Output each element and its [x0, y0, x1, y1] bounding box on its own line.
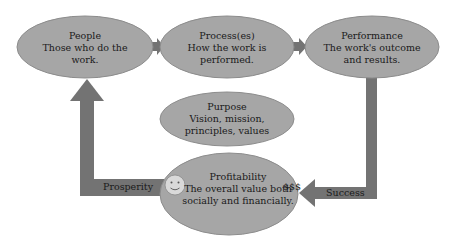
money-label: $$$: [283, 181, 301, 192]
purpose-desc-line1: Vision, mission,: [189, 113, 264, 125]
people-desc-line2: work.: [71, 54, 98, 66]
performance-node: Performance The work's outcome and resul…: [305, 17, 439, 79]
profitability-desc-line2: socially and financially.: [182, 195, 293, 207]
process-title: Process(es): [199, 30, 254, 42]
people-desc-line1: Those who do the: [42, 42, 127, 54]
performance-desc-line2: and results.: [344, 54, 401, 66]
profitability-node: Profitability The overall value both soc…: [178, 168, 298, 210]
profitability-title: Profitability: [210, 171, 267, 183]
purpose-title: Purpose: [207, 101, 246, 113]
purpose-desc-line2: principles, values: [185, 125, 269, 137]
people-title: People: [69, 30, 101, 42]
prosperity-arrow: [70, 79, 164, 196]
purpose-node: Purpose Vision, mission, principles, val…: [160, 92, 294, 146]
process-desc-line1: How the work is: [188, 42, 267, 54]
profitability-desc-line1: The overall value both: [184, 183, 292, 195]
performance-desc-line1: The work's outcome: [323, 42, 420, 54]
success-label: Success: [326, 187, 365, 198]
performance-title: Performance: [341, 30, 403, 42]
prosperity-label: Prosperity: [103, 181, 153, 192]
process-desc-line2: performed.: [200, 54, 254, 66]
people-node: People Those who do the work.: [17, 17, 153, 79]
process-node: Process(es) How the work is performed.: [160, 17, 294, 79]
